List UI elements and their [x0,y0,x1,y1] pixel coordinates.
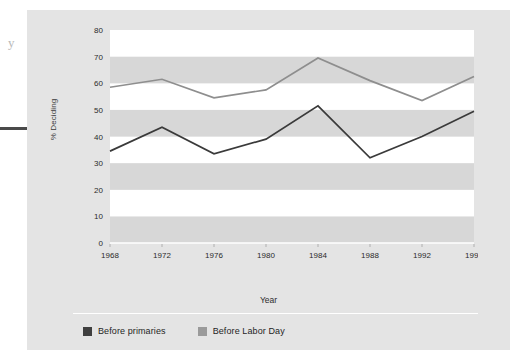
plot-area: 01020304050607080 1968197219761980198419… [84,24,478,269]
svg-text:30: 30 [94,159,103,168]
svg-text:0: 0 [99,239,104,248]
svg-text:1996: 1996 [465,251,478,260]
y-axis-title: % Deciding [49,85,58,155]
svg-text:70: 70 [94,53,103,62]
svg-text:60: 60 [94,79,103,88]
line-chart-svg: 01020304050607080 1968197219761980198419… [84,24,478,269]
svg-text:40: 40 [94,133,103,142]
legend-item-before-labor-day: Before Labor Day [198,326,285,336]
legend-swatch-icon [198,327,207,336]
svg-text:10: 10 [94,212,103,221]
svg-text:20: 20 [94,186,103,195]
legend-item-label: Before Labor Day [213,326,285,336]
svg-text:1992: 1992 [413,251,431,260]
y-axis-tick-labels: 01020304050607080 [94,26,103,248]
legend-item-before-primaries: Before primaries [83,326,166,336]
x-axis-tick-labels: 19681972197619801984198819921996 [101,251,478,260]
chart-legend: Before primaries Before Labor Day [83,326,285,336]
svg-text:1980: 1980 [257,251,275,260]
svg-text:1972: 1972 [153,251,171,260]
scan-artifact-rule [0,127,28,130]
legend-swatch-icon [83,327,92,336]
svg-text:1968: 1968 [101,251,119,260]
background-bands [110,30,474,243]
svg-text:1976: 1976 [205,251,223,260]
svg-text:1984: 1984 [309,251,327,260]
x-axis-title: Year [27,295,510,305]
chart-figure-panel: % Deciding 01020304050607080 19681972197… [27,10,510,350]
svg-text:1988: 1988 [361,251,379,260]
svg-text:80: 80 [94,26,103,35]
legend-divider [73,313,478,314]
legend-item-label: Before primaries [98,326,166,336]
scan-artifact-glyph: y [8,36,18,50]
svg-text:50: 50 [94,106,103,115]
x-axis [110,243,474,247]
